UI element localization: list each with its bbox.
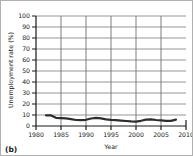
svg-text:60: 60 — [22, 56, 30, 63]
svg-text:1985: 1985 — [53, 131, 69, 138]
y-axis-title: Unemployment rate (%) — [7, 32, 14, 108]
svg-text:2000: 2000 — [128, 131, 144, 138]
svg-text:70: 70 — [22, 45, 30, 52]
x-tick-labels: 1980198519901995200020052010 — [28, 131, 193, 138]
svg-text:1980: 1980 — [28, 131, 44, 138]
svg-text:40: 40 — [22, 78, 30, 85]
svg-text:80: 80 — [22, 34, 30, 41]
panel-label: (b) — [5, 145, 17, 154]
svg-text:50: 50 — [22, 67, 30, 74]
chart-panel: 0102030405060708090100 19801985199019952… — [0, 0, 193, 156]
svg-text:1990: 1990 — [78, 131, 94, 138]
svg-text:90: 90 — [22, 23, 30, 30]
svg-text:10: 10 — [22, 111, 30, 118]
svg-text:2005: 2005 — [153, 131, 169, 138]
x-axis-title: Year — [104, 143, 117, 150]
svg-text:1995: 1995 — [103, 131, 119, 138]
svg-text:20: 20 — [22, 100, 30, 107]
y-tick-labels: 0102030405060708090100 — [18, 12, 30, 129]
plot-svg: 0102030405060708090100 19801985199019952… — [1, 1, 193, 156]
axes — [32, 16, 186, 130]
svg-text:2010: 2010 — [178, 131, 193, 138]
svg-text:0: 0 — [26, 122, 30, 129]
svg-text:100: 100 — [18, 12, 30, 19]
svg-text:30: 30 — [22, 89, 30, 96]
